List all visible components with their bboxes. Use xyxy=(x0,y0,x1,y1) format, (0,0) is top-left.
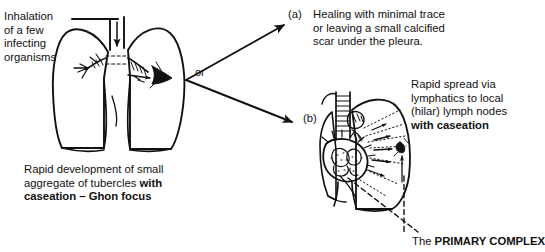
outcome-a-text: Healing with minimal trace or leaving a … xyxy=(313,8,445,49)
inhalation-label: Inhalation of a few infecting organisms xyxy=(4,10,56,64)
outcome-a-marker: (a) xyxy=(288,8,302,22)
outcome-b-text-bold: with caseation xyxy=(411,119,489,131)
primary-complex-caption-plain: The xyxy=(412,235,435,247)
right-lung-figure xyxy=(320,92,418,232)
ghon-focus-caption: Rapid development of small aggregate of … xyxy=(24,163,163,204)
left-lung-figure xyxy=(53,17,185,151)
outcome-b-marker: (b) xyxy=(303,112,317,126)
outcome-b-text-plain: Rapid spread via lymphatics to local (hi… xyxy=(411,78,507,117)
branch-connector-label: or xyxy=(195,66,205,80)
primary-complex-caption-bold: PRIMARY COMPLEX xyxy=(435,235,545,247)
outcome-b-text: Rapid spread via lymphatics to local (hi… xyxy=(411,78,507,132)
primary-complex-caption: The PRIMARY COMPLEX xyxy=(412,235,545,249)
